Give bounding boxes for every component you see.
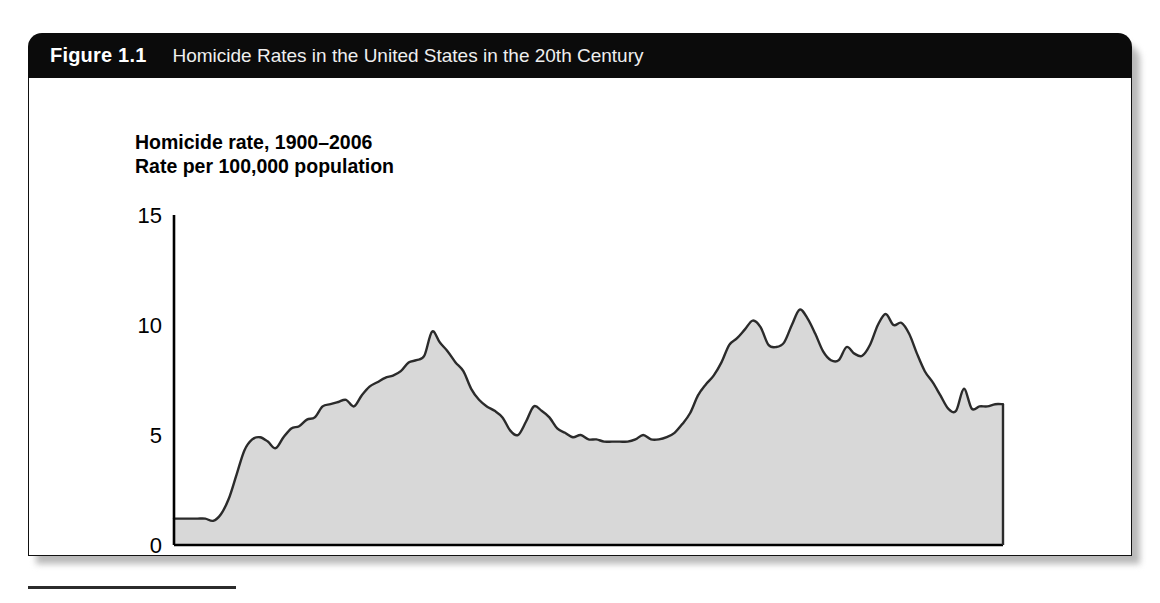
y-tick-label: 15 [138,203,162,228]
figure-number-label: Figure 1.1 [50,44,146,67]
x-tick-label: 1980 [775,551,824,554]
figure-body: Homicide rate, 1900–2006 Rate per 100,00… [28,78,1132,556]
figure-header-bar: Figure 1.1 Homicide Rates in the United … [28,33,1132,78]
x-tick-label: 2006 [979,551,1028,554]
figure-card: Figure 1.1 Homicide Rates in the United … [28,33,1132,556]
footnote-separator-rule [28,586,236,589]
chart-container: Homicide rate, 1900–2006 Rate per 100,00… [29,78,1131,554]
x-tick-label: 1900 [156,551,205,554]
x-axis-tick-labels: 19001916193219481964198019962006 [156,551,1028,554]
y-tick-label: 5 [150,423,162,448]
homicide-rate-area-chart: 051015 19001916193219481964198019962006 [29,78,1131,554]
x-tick-label: 1932 [400,551,449,554]
x-tick-label: 1964 [650,551,699,554]
figure-root: Figure 1.1 Homicide Rates in the United … [0,0,1160,603]
y-axis-tick-labels: 051015 [138,203,162,554]
figure-caption: Homicide Rates in the United States in t… [172,45,643,67]
x-tick-label: 1996 [900,551,949,554]
y-tick-label: 10 [138,313,162,338]
x-tick-label: 1948 [525,551,574,554]
x-tick-label: 1916 [275,551,324,554]
